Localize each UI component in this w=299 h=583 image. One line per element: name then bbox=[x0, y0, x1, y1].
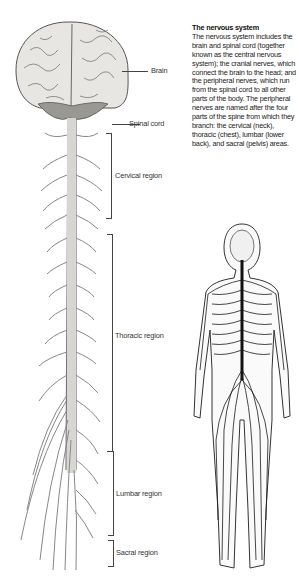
cervical-region-label: Cervical region bbox=[115, 171, 162, 180]
caption-body: The nervous system includes the brain an… bbox=[192, 32, 296, 148]
brain-icon bbox=[16, 22, 128, 119]
brain-label: Brain bbox=[151, 66, 168, 75]
sacral-region-label: Sacral region bbox=[116, 548, 158, 557]
lumbar-region-label: Lumbar region bbox=[116, 489, 162, 498]
thoracic-region-label: Thoracic region bbox=[115, 331, 164, 340]
caption: The nervous system The nervous system in… bbox=[192, 24, 298, 149]
sacral-bracket bbox=[108, 540, 114, 567]
thoracic-bracket bbox=[107, 234, 113, 452]
cervical-bracket bbox=[106, 133, 112, 219]
brain-leader-line bbox=[122, 71, 148, 72]
lumbar-bracket bbox=[108, 451, 114, 536]
peripheral-nerves-icon bbox=[21, 133, 102, 570]
human-body-nervous-system-illustration bbox=[190, 220, 299, 580]
spinal-cord-label: Spinal cord bbox=[129, 119, 164, 128]
